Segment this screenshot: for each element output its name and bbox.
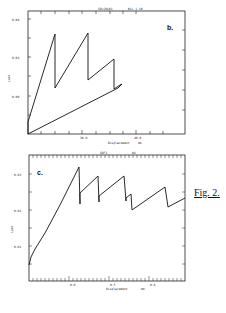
svg-text:0.8: 0.8 xyxy=(150,283,156,287)
svg-text:mm: mm xyxy=(141,287,145,291)
svg-text:SPLCOL01: SPLCOL01 xyxy=(98,7,113,11)
svg-text:b.: b. xyxy=(167,24,173,31)
svg-text:30.0: 30.0 xyxy=(80,136,87,140)
svg-text:0.01: 0.01 xyxy=(14,245,21,249)
svg-text:0.08: 0.08 xyxy=(12,18,19,22)
svg-text:Load: Load xyxy=(7,75,11,82)
panel-b: 0.08 0.04 0.00 Load 30.0 40.0 Displaceme… xyxy=(7,7,185,145)
svg-text:0.00: 0.00 xyxy=(12,95,19,99)
svg-text:Displacement: Displacement xyxy=(106,287,128,291)
svg-text:KLL 1 10: KLL 1 10 xyxy=(128,7,143,11)
svg-text:0.02: 0.02 xyxy=(14,209,21,213)
svg-text:0.03: 0.03 xyxy=(14,173,21,177)
svg-text:c.: c. xyxy=(37,169,43,176)
svg-text:mm: mm xyxy=(138,141,142,145)
figure-canvas: 0.08 0.04 0.00 Load 30.0 40.0 Displaceme… xyxy=(0,0,226,313)
svg-text:Displacement: Displacement xyxy=(108,141,130,145)
svg-text:Load: Load xyxy=(10,226,14,233)
svg-text:0.0: 0.0 xyxy=(70,283,76,287)
svg-text:04: 04 xyxy=(132,151,136,155)
svg-text:SDF1: SDF1 xyxy=(100,151,107,155)
figure-caption: Fig. 2. xyxy=(194,187,220,198)
panel-c: 0.03 0.02 0.01 Load 0.0 0.5 0.8 Displace… xyxy=(10,151,185,291)
svg-text:0.04: 0.04 xyxy=(12,56,19,60)
svg-text:40.0: 40.0 xyxy=(134,136,141,140)
